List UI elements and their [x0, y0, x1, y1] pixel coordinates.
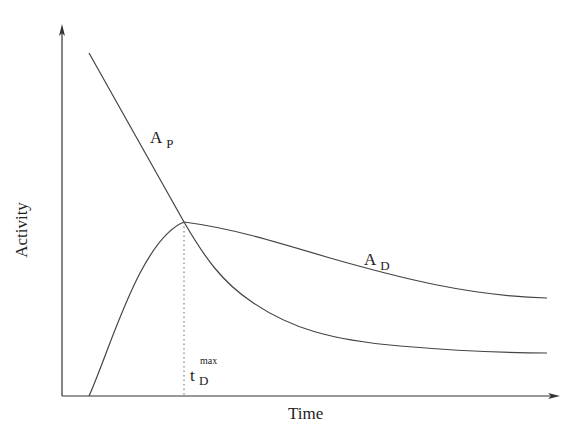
label-ad-sub: D [380, 258, 389, 273]
label-ad-main: A [364, 250, 376, 269]
label-ap-sub: P [166, 136, 173, 151]
y-axis-label: Activity [12, 202, 32, 258]
label-tmax-sub: D [199, 373, 208, 389]
label-tmax: t max D [190, 366, 195, 386]
curve-ap [89, 53, 547, 353]
curve-ad [89, 222, 547, 396]
label-ap: AP [150, 128, 174, 148]
x-axis-label: Time [288, 404, 323, 424]
chart-canvas [0, 0, 586, 445]
label-tmax-sup: max [200, 355, 217, 366]
label-ad: AD [364, 250, 390, 270]
label-ap-main: A [150, 128, 162, 147]
label-tmax-main: t [190, 366, 195, 385]
